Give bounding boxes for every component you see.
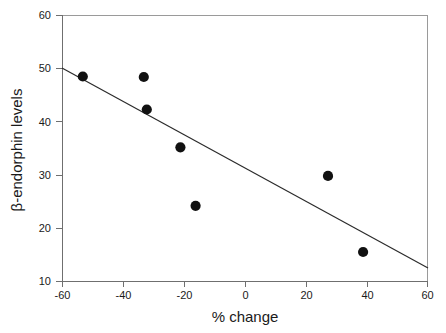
x-tick-label: -20: [177, 289, 193, 301]
y-tick-label: 10: [39, 275, 51, 287]
data-point: [139, 72, 149, 82]
y-tick-label: 30: [39, 169, 51, 181]
x-tick-label: -60: [55, 289, 71, 301]
data-point: [175, 142, 185, 152]
x-tick-label: 0: [242, 289, 248, 301]
x-tick-label: -40: [116, 289, 132, 301]
data-point: [78, 71, 88, 81]
y-axis-title: β-endorphin levels: [8, 89, 25, 212]
figure-container: 10 20 30 40 50 60 -60 -40 -20 0 20 40 60: [0, 0, 446, 333]
y-tick-label: 20: [39, 222, 51, 234]
y-tick-label: 40: [39, 116, 51, 128]
x-axis-title: % change: [212, 308, 279, 325]
x-tick-label: 20: [300, 289, 312, 301]
data-point: [358, 247, 368, 257]
y-tick-label: 60: [39, 9, 51, 21]
scatter-plot: 10 20 30 40 50 60 -60 -40 -20 0 20 40 60: [0, 0, 446, 333]
y-tick-label: 50: [39, 62, 51, 74]
plot-background: [0, 0, 446, 333]
data-point: [191, 201, 201, 211]
x-tick-label: 60: [421, 289, 433, 301]
data-point: [323, 171, 333, 181]
data-point: [142, 104, 152, 114]
x-tick-label: 40: [361, 289, 373, 301]
